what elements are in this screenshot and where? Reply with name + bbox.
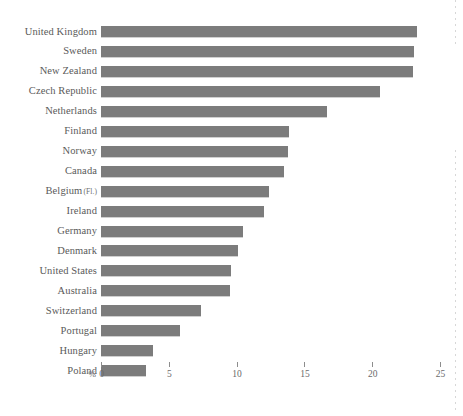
x-axis-tick-mark xyxy=(304,362,305,367)
bar xyxy=(101,166,284,177)
bar-row: Norway xyxy=(0,141,463,161)
bar xyxy=(101,66,413,77)
bar xyxy=(101,106,327,117)
category-label-main: Belgium xyxy=(46,185,83,196)
bar-row: New Zealand xyxy=(0,61,463,81)
category-label: Switzerland xyxy=(0,301,97,321)
bar xyxy=(101,226,243,237)
category-label: Australia xyxy=(0,281,97,301)
bar xyxy=(101,186,269,197)
category-label: Belgium(Fl.) xyxy=(0,181,97,201)
bar-row: Australia xyxy=(0,281,463,301)
bar-row: Sweden xyxy=(0,41,463,61)
bar-row: Denmark xyxy=(0,241,463,261)
bar xyxy=(101,345,153,356)
x-axis-tick-mark xyxy=(101,362,102,367)
bar xyxy=(101,245,238,256)
category-label: Finland xyxy=(0,121,97,141)
bar xyxy=(101,86,380,97)
bar-row: Hungary xyxy=(0,341,463,361)
bar-row: Germany xyxy=(0,221,463,241)
bar-row: Belgium(Fl.) xyxy=(0,181,463,201)
bar-row: Finland xyxy=(0,121,463,141)
category-label: Denmark xyxy=(0,241,97,261)
bar xyxy=(101,206,264,217)
x-axis-tick-label: 10 xyxy=(217,369,257,379)
bar xyxy=(101,265,231,276)
category-label: Norway xyxy=(0,141,97,161)
bar xyxy=(101,305,201,316)
category-label: United States xyxy=(0,261,97,281)
bar-row: Portugal xyxy=(0,321,463,341)
horizontal-bar-chart: United KingdomSwedenNew ZealandCzech Rep… xyxy=(0,0,463,416)
page-edge-marker-bottom xyxy=(455,150,456,410)
plot-area: United KingdomSwedenNew ZealandCzech Rep… xyxy=(0,0,463,416)
category-label-qualifier: (Fl.) xyxy=(83,187,97,196)
bar xyxy=(101,26,417,37)
category-label: Hungary xyxy=(0,341,97,361)
bar xyxy=(101,285,230,296)
x-axis-tick-label: 20 xyxy=(353,369,393,379)
x-axis-tick-label: 15 xyxy=(285,369,325,379)
x-axis-tick-label: 5 xyxy=(149,369,189,379)
category-label: United Kingdom xyxy=(0,22,97,42)
x-axis-tick-mark xyxy=(440,362,441,367)
category-label: Portugal xyxy=(0,321,97,341)
x-axis-tick-mark xyxy=(237,362,238,367)
bar-row: Czech Republic xyxy=(0,81,463,101)
category-label: Czech Republic xyxy=(0,81,97,101)
category-label: Canada xyxy=(0,161,97,181)
category-label: Netherlands xyxy=(0,101,97,121)
bar-row: United Kingdom xyxy=(0,22,463,42)
bar xyxy=(101,325,180,336)
bar-row: Canada xyxy=(0,161,463,181)
bar xyxy=(101,46,414,57)
bar-row: United States xyxy=(0,261,463,281)
category-label: Sweden xyxy=(0,41,97,61)
category-label: Germany xyxy=(0,221,97,241)
page-edge-marker-top xyxy=(455,0,456,46)
bar xyxy=(101,146,288,157)
x-axis: 0510152025 xyxy=(0,362,463,392)
category-label: New Zealand xyxy=(0,61,97,81)
bar-row: Ireland xyxy=(0,201,463,221)
bar-row: Switzerland xyxy=(0,301,463,321)
x-axis-tick-mark xyxy=(169,362,170,367)
bar xyxy=(101,126,289,137)
category-label: Ireland xyxy=(0,201,97,221)
x-axis-tick-mark xyxy=(372,362,373,367)
x-axis-unit-label: % xyxy=(80,369,96,379)
bar-row: Netherlands xyxy=(0,101,463,121)
